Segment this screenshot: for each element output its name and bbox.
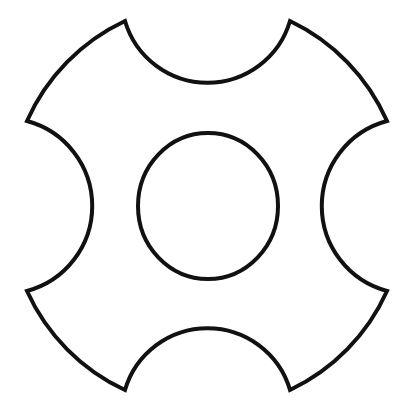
central-circle-hole xyxy=(138,133,278,279)
diagram-canvas: Line drawing of a rounded disc with four… xyxy=(0,0,406,410)
notched-disc-drawing xyxy=(0,0,406,410)
